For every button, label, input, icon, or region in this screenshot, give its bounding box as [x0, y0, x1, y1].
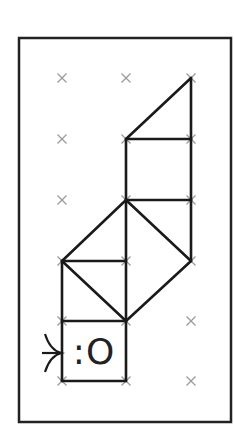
shape-edge	[126, 78, 191, 139]
grid-point-x-icon	[187, 317, 196, 326]
face-label: :O	[72, 330, 116, 374]
entry-arrow-icon	[42, 334, 61, 372]
shape-edge	[126, 200, 191, 261]
shape-edge	[126, 261, 191, 321]
shape-edge	[62, 200, 126, 261]
grid-point-x-icon	[58, 74, 67, 83]
grid-point-x-icon	[58, 196, 67, 205]
grid-point-x-icon	[187, 377, 196, 386]
puzzle-diagram	[0, 0, 234, 443]
grid-point-x-icon	[122, 74, 131, 83]
grid-point-x-icon	[58, 135, 67, 144]
shape-edge	[62, 261, 126, 321]
